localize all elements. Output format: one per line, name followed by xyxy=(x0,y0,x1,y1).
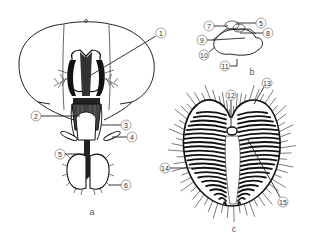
seta xyxy=(280,140,288,142)
face-center xyxy=(80,52,92,96)
seta xyxy=(169,129,184,135)
seta xyxy=(280,133,291,137)
callout-10: 10 xyxy=(200,52,208,59)
seta xyxy=(269,184,278,191)
right-eye-lower xyxy=(104,102,132,120)
seta xyxy=(258,196,264,206)
seta xyxy=(254,199,258,206)
seta xyxy=(181,177,192,183)
seta xyxy=(269,97,276,107)
food-canal xyxy=(225,21,239,29)
seta xyxy=(244,204,247,216)
callout-8: 8 xyxy=(266,30,270,37)
panel-label-a: a xyxy=(89,207,94,217)
seta xyxy=(187,93,196,106)
clypeus-band xyxy=(73,98,100,104)
seta xyxy=(260,94,264,101)
seta xyxy=(202,93,206,100)
frons-line-right xyxy=(109,25,110,110)
callout-3: 3 xyxy=(124,122,128,129)
left-eye-lower xyxy=(38,102,74,120)
seta xyxy=(179,120,186,124)
callout-14: 14 xyxy=(161,165,169,172)
callout-15: 15 xyxy=(279,199,287,206)
frons-line-left xyxy=(63,25,64,110)
palp-left xyxy=(60,130,78,142)
seta xyxy=(277,114,287,121)
seta xyxy=(272,105,277,111)
panel-label-c: c xyxy=(232,224,237,234)
seta xyxy=(174,162,186,164)
seta xyxy=(249,85,254,100)
seta xyxy=(204,198,208,205)
seta xyxy=(276,169,287,173)
seta xyxy=(234,206,235,222)
seta xyxy=(279,125,293,132)
callout-4: 4 xyxy=(130,134,134,141)
seta xyxy=(279,159,287,160)
seta xyxy=(192,191,200,200)
seta xyxy=(278,164,294,167)
callout-7: 7 xyxy=(207,23,211,30)
seta xyxy=(181,172,188,175)
callout-1: 1 xyxy=(159,30,163,37)
palp-right xyxy=(103,130,121,142)
seta xyxy=(194,92,200,102)
callout-5b: 5 xyxy=(259,20,263,27)
seta xyxy=(249,202,255,217)
seta xyxy=(280,146,296,148)
panel-c-labellum xyxy=(168,85,296,222)
seta xyxy=(265,90,274,103)
seta xyxy=(262,192,272,204)
seta xyxy=(181,182,194,191)
seta xyxy=(168,150,184,151)
labellum-left xyxy=(67,154,86,189)
panel-a-head xyxy=(19,20,154,196)
seta xyxy=(213,90,216,102)
oral-opening xyxy=(227,127,237,135)
seta xyxy=(278,122,285,126)
seta xyxy=(195,194,204,207)
seta xyxy=(227,206,228,218)
hypopharynx-line xyxy=(213,38,245,40)
seta xyxy=(221,205,222,213)
seta xyxy=(208,201,213,212)
callout-13: 13 xyxy=(263,80,271,87)
seta xyxy=(172,144,184,146)
callout-2: 2 xyxy=(34,113,38,120)
seta xyxy=(239,205,240,213)
fly-mouthparts-diagram: 1 2 3 4 5 6 a 7 5 8 xyxy=(0,0,321,245)
labellum-right xyxy=(90,154,109,189)
callout-9: 9 xyxy=(200,37,204,44)
seta xyxy=(213,203,218,218)
callout-5a: 5 xyxy=(58,151,62,158)
callout-12: 12 xyxy=(227,92,235,99)
seta xyxy=(205,85,211,100)
callout-6: 6 xyxy=(124,182,128,189)
panel-b-cross-section xyxy=(213,21,262,66)
seta xyxy=(191,186,197,191)
panel-label-b: b xyxy=(249,67,254,77)
seta xyxy=(266,188,272,194)
seta xyxy=(176,138,184,140)
seta xyxy=(174,124,185,130)
seta xyxy=(274,174,281,177)
seta xyxy=(181,106,190,114)
leader-10 xyxy=(209,47,215,52)
callout-11: 11 xyxy=(221,63,228,70)
seta xyxy=(187,104,192,110)
